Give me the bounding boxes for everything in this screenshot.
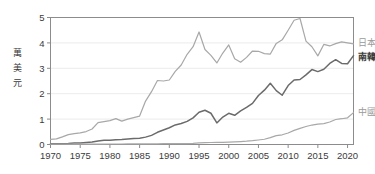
series-line-korea <box>51 56 354 144</box>
x-tick-label: 2015 <box>307 150 328 161</box>
x-tick-label: 2005 <box>248 150 269 161</box>
series-label-japan: 日本 <box>358 37 375 48</box>
y-axis-title-char: 美 <box>13 62 22 73</box>
gdp-per-capita-line-chart: 012345 197019751980198519901995200020052… <box>0 0 375 174</box>
y-axis-title-char: 元 <box>13 78 22 88</box>
series-label-china: 中國 <box>358 106 375 117</box>
y-axis-title: 萬美元 <box>13 47 22 88</box>
series-line-japan <box>51 19 354 140</box>
chart-container: 012345 197019751980198519901995200020052… <box>0 0 375 174</box>
data-series-group <box>51 19 354 145</box>
series-line-china <box>51 113 354 145</box>
x-tick-label: 1980 <box>99 150 120 161</box>
y-tick-label: 1 <box>39 114 44 125</box>
y-tick-label: 2 <box>39 88 44 99</box>
x-axis-ticks: 1970197519801985199019952000200520102015… <box>40 145 358 161</box>
series-labels-group: 日本南韓中國 <box>358 37 375 117</box>
x-tick-label: 1995 <box>188 150 209 161</box>
x-tick-label: 1985 <box>129 150 150 161</box>
x-tick-label: 1990 <box>159 150 180 161</box>
gridlines-group <box>51 18 354 120</box>
series-label-korea: 南韓 <box>358 51 375 62</box>
x-tick-label: 2000 <box>218 150 239 161</box>
x-tick-label: 2010 <box>278 150 299 161</box>
x-tick-label: 1970 <box>40 150 61 161</box>
x-tick-label: 1975 <box>70 150 91 161</box>
x-tick-label: 2020 <box>337 150 358 161</box>
y-tick-label: 3 <box>39 63 44 74</box>
y-tick-label: 0 <box>39 139 44 150</box>
y-axis-title-char: 萬 <box>13 47 22 58</box>
y-tick-label: 4 <box>39 38 44 49</box>
y-tick-label: 5 <box>39 12 44 23</box>
y-axis-ticks: 012345 <box>39 12 50 150</box>
